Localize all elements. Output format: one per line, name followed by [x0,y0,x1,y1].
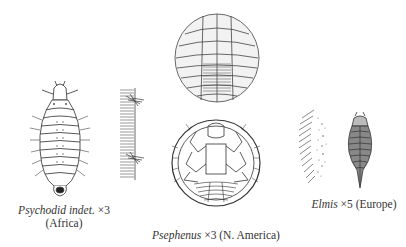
elmis-dorsal-drawing [345,112,375,190]
psephenus-gill-drawing [118,88,158,188]
psychodid-genus: Psychodid indet. [18,204,95,216]
elmis-gill-drawing [298,106,332,186]
elmis-caption: Elmis ×5 (Europe) [306,198,402,211]
psychodid-magnification: ×3 [95,204,110,216]
elmis-magnification-region: ×5 (Europe) [338,198,397,210]
psephenus-genus: Psephenus [152,229,201,241]
elmis-genus: Elmis [311,198,337,210]
psephenus-ventral-drawing [170,118,262,208]
psychodid-region: (Africa) [16,217,112,230]
psephenus-magnification-region: ×3 (N. America) [201,229,280,241]
psephenus-caption: Psephenus ×3 (N. America) [148,229,284,242]
psychodid-caption: Psychodid indet. ×3 (Africa) [16,204,112,230]
psephenus-dorsal-drawing [173,12,261,104]
psychodid-larva-drawing [24,80,96,198]
